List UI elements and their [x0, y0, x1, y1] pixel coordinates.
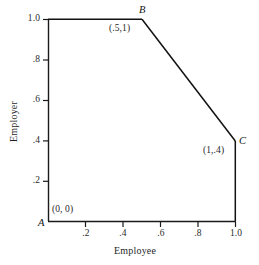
- x-tick-label-0.4: .4: [108, 229, 138, 239]
- x-tick-label-0.2: .2: [71, 229, 101, 239]
- y-tick-label-0.8: .8: [10, 55, 40, 65]
- x-axis-title: Employee: [114, 246, 156, 256]
- x-tick-label-0.8: .8: [183, 229, 213, 239]
- x-tick-label-1.0: 1.0: [221, 229, 251, 239]
- vertex-coord-c: (1,.4): [203, 146, 224, 156]
- vertex-label-a: A: [38, 218, 44, 229]
- segment-b-to-c: [142, 19, 235, 141]
- feasible-set-boundary: [48, 19, 235, 221]
- y-axis-title: Employer: [9, 101, 19, 142]
- x-tick-label-0.6: .6: [146, 229, 176, 239]
- vertex-label-c: C: [239, 136, 246, 147]
- y-tick-label-0.2: .2: [10, 176, 40, 186]
- y-tick-label-1.0: 1.0: [10, 14, 40, 24]
- x-axis-ticks: [86, 222, 236, 228]
- vertex-label-b: B: [139, 5, 145, 16]
- vertex-coord-b: (.5,1): [109, 24, 130, 34]
- vertex-coord-a: (0, 0): [52, 205, 73, 215]
- y-axis-ticks: [43, 20, 49, 182]
- bargaining-set-chart: 1.0 .8 .6 .4 .2 .2 .4 .6 .8 1.0 Employer…: [0, 0, 259, 265]
